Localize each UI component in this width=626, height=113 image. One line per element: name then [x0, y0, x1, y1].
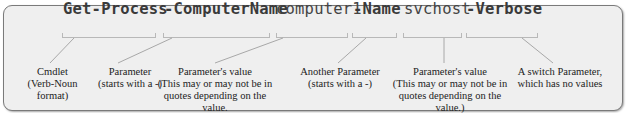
annotation-line: Parameter's value — [385, 66, 515, 78]
annotation-parameter-value: Parameter's value (This may or may not b… — [150, 66, 280, 113]
annotation-line: quotes depending on the value. — [150, 90, 280, 113]
annotation-line: format) — [10, 90, 95, 102]
annotation-switch-parameter: A switch Parameter, which has no values — [510, 66, 610, 90]
annotation-line: Parameter's value — [150, 66, 280, 78]
annotation-line: which has no values — [510, 78, 610, 90]
annotation-line: quotes depending on the value.) — [385, 90, 515, 113]
annotation-line: A switch Parameter, — [510, 66, 610, 78]
annotation-line: (This may or may not be in — [150, 78, 280, 90]
annotation-another-parameter: Another Parameter (starts with a -) — [292, 66, 388, 90]
annotation-line: (starts with a -) — [292, 78, 388, 90]
annotation-parameter-value-2: Parameter's value (This may or may not b… — [385, 66, 515, 113]
annotation-line: Another Parameter — [292, 66, 388, 78]
annotation-line: (This may or may not be in — [385, 78, 515, 90]
